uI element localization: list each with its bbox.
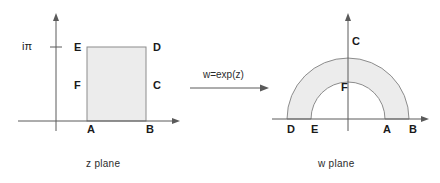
z-plane-point-label-A: A bbox=[87, 123, 95, 135]
w-plane-point-label-E: E bbox=[311, 123, 318, 135]
mapping-arrow-group bbox=[190, 85, 269, 92]
w-plane-imaginary-axis-arrowhead bbox=[345, 13, 351, 21]
w-plane-point-label-D: D bbox=[287, 123, 295, 135]
z-plane-imaginary-axis-arrowhead bbox=[53, 13, 59, 21]
z-plane-caption: z plane bbox=[86, 158, 120, 169]
z-plane-real-axis-arrowhead bbox=[172, 118, 180, 124]
z-plane-point-label-E: E bbox=[74, 41, 81, 53]
w-plane-point-label-B: B bbox=[409, 123, 417, 135]
mapping-function-label: w=exp(z) bbox=[203, 69, 244, 80]
w-plane-point-label-C: C bbox=[352, 35, 360, 47]
w-plane-point-label-F: F bbox=[341, 81, 348, 93]
mapping-arrow-head bbox=[260, 85, 269, 92]
z-plane-point-label-F: F bbox=[74, 79, 81, 91]
conformal-mapping-figure bbox=[0, 0, 440, 183]
w-plane-real-axis-arrowhead bbox=[421, 116, 429, 122]
z-plane-ipi-axis-label: iπ bbox=[22, 40, 32, 52]
z-plane-group bbox=[18, 13, 180, 131]
z-plane-point-label-D: D bbox=[153, 41, 161, 53]
w-plane-point-label-A: A bbox=[383, 123, 391, 135]
w-plane-caption: w plane bbox=[318, 158, 355, 169]
z-plane-point-label-B: B bbox=[146, 123, 154, 135]
w-plane-group bbox=[272, 13, 429, 131]
z-plane-point-label-C: C bbox=[153, 79, 161, 91]
z-plane-rectangle-region bbox=[87, 47, 146, 121]
